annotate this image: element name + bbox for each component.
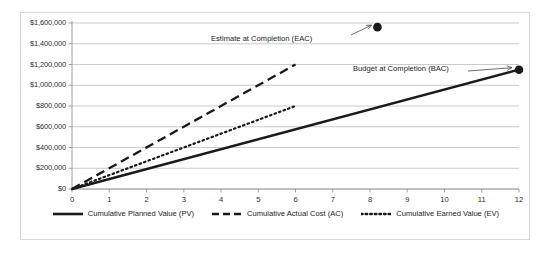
annotation-bac: Budget at Completion (BAC) [353, 64, 449, 73]
chart-plot-area: $1,600,000$1,400,000$1,200,000$1,000,000… [21, 13, 531, 241]
x-axis-tick-label: 2 [135, 195, 159, 204]
legend-item-label: Cumulative Actual Cost (AC) [247, 209, 343, 218]
chart-legend: Cumulative Planned Value (PV)Cumulative … [21, 209, 531, 218]
legend-item-label: Cumulative Earned Value (EV) [396, 209, 499, 218]
x-axis-tick-label: 9 [395, 195, 419, 204]
chart-frame: $1,600,000$1,400,000$1,200,000$1,000,000… [20, 12, 530, 240]
y-axis-tick-label: $0 [21, 184, 66, 193]
legend-item[interactable]: Cumulative Planned Value (PV) [53, 209, 194, 218]
chart-canvas [21, 13, 531, 241]
y-axis-tick-label: $1,000,000 [21, 80, 66, 89]
x-axis-tick-label: 5 [246, 195, 270, 204]
legend-item[interactable]: Cumulative Earned Value (EV) [361, 209, 499, 218]
annotation-eac: Estimate at Completion (EAC) [211, 34, 312, 43]
y-axis-tick-label: $200,000 [21, 163, 66, 172]
y-axis-tick-label: $1,400,000 [21, 39, 66, 48]
x-axis-tick-label: 4 [209, 195, 233, 204]
x-axis-tick-label: 6 [284, 195, 308, 204]
legend-swatch-dashed [212, 210, 242, 218]
y-axis-tick-label: $800,000 [21, 101, 66, 110]
legend-swatch-solid [53, 210, 83, 218]
y-axis-tick-label: $600,000 [21, 122, 66, 131]
x-axis-tick-label: 0 [60, 195, 84, 204]
x-axis-tick-label: 3 [172, 195, 196, 204]
legend-item[interactable]: Cumulative Actual Cost (AC) [212, 209, 343, 218]
legend-item-label: Cumulative Planned Value (PV) [88, 209, 194, 218]
y-axis-tick-label: $1,600,000 [21, 18, 66, 27]
x-axis-tick-label: 10 [433, 195, 457, 204]
y-axis-tick-label: $400,000 [21, 143, 66, 152]
x-axis-tick-label: 11 [470, 195, 494, 204]
x-axis-tick-label: 1 [97, 195, 121, 204]
x-axis-tick-label: 7 [321, 195, 345, 204]
legend-swatch-dotted [361, 210, 391, 218]
y-axis-tick-label: $1,200,000 [21, 60, 66, 69]
x-axis-tick-label: 12 [507, 195, 531, 204]
x-axis-tick-label: 8 [358, 195, 382, 204]
